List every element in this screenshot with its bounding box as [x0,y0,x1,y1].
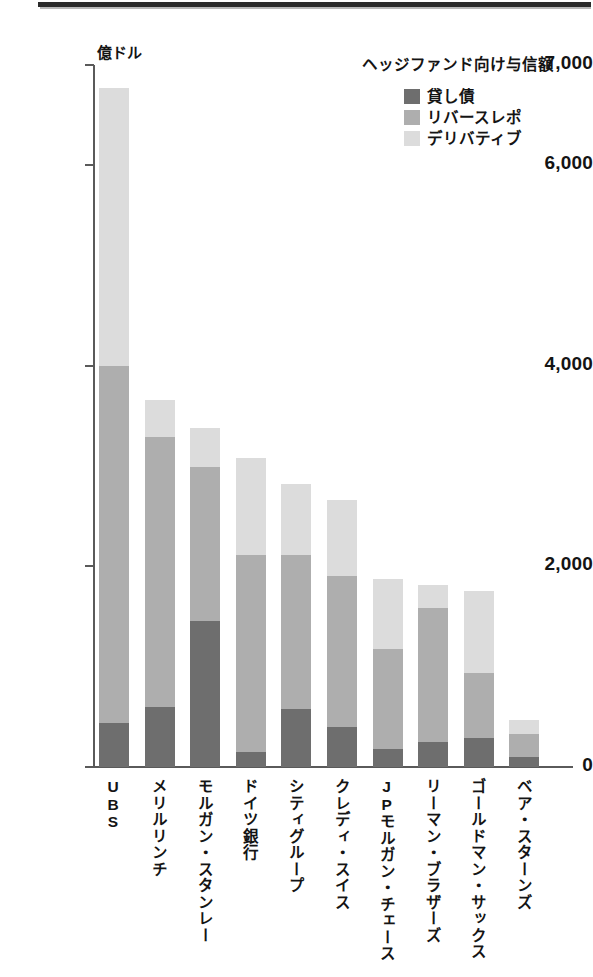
bar-stack [418,65,448,767]
bar-stack [190,65,220,767]
bar-segment [145,437,175,707]
y-axis-tick [85,565,94,567]
y-axis-unit-label: 億ドル [97,41,142,62]
bar-segment [236,555,266,752]
legend-items: 貸し債リバースレポデリバティブ [362,88,572,147]
bar-segment [281,709,311,767]
chart-legend: ヘッジファンド向け与信額 貸し債リバースレポデリバティブ [362,52,572,150]
legend-item-label: 貸し債 [427,88,475,106]
legend-item: デリバティブ [404,130,572,148]
bar-stack [236,65,266,767]
bar-segment [327,727,357,767]
x-axis-label: モルガン・スタンレー [196,778,212,943]
legend-item: 貸し債 [404,88,572,106]
x-axis-label: クレディ・スイス [333,778,349,910]
bar-segment [190,467,220,620]
bar-segment [373,649,403,749]
legend-swatch-icon [404,89,420,104]
bar-stack [281,65,311,767]
x-axis-label: UBS [105,778,121,831]
plot-area [95,65,560,767]
bar-segment [236,752,266,767]
bar-segment [373,579,403,648]
bar-segment [464,673,494,738]
x-axis-label: ベア・スターンズ [515,778,531,910]
stacked-bar-chart: 億ドル 02,0004,0006,0007,000 UBSメリルリンチモルガン・… [0,0,593,977]
legend-swatch-icon [404,131,420,146]
x-axis-label: JPモルガン・チェース [379,778,395,962]
bar-segment [99,723,129,767]
bar-segment [418,742,448,767]
bar-segment [418,585,448,607]
legend-item: リバースレポ [404,109,572,127]
bar-segment [509,757,539,767]
bar-segment [145,707,175,767]
legend-title: ヘッジファンド向け与信額 [362,52,572,74]
legend-item-label: デリバティブ [427,130,522,148]
bar-segment [190,428,220,467]
bar-segment [281,484,311,555]
bar-segment [509,734,539,757]
x-axis-label: メリルリンチ [151,778,167,877]
bar-segment [236,458,266,555]
bar-segment [464,738,494,767]
bar-segment [327,500,357,576]
bar-segment [464,591,494,673]
y-axis-tick [85,766,94,768]
bar-segment [509,720,539,734]
x-axis-label: ドイツ銀行 [242,778,258,861]
y-axis-tick [85,64,94,66]
bar-segment [373,749,403,767]
bar-stack [509,65,539,767]
bar-segment [281,555,311,708]
x-axis-label: リーマン・ブラザーズ [424,778,440,943]
legend-item-label: リバースレポ [427,109,522,127]
y-axis-tick [85,164,94,166]
x-axis-label: シティグループ [287,778,303,894]
bar-segment [99,88,129,366]
bar-stack [327,65,357,767]
x-axis-label: ゴールドマン・サックス [470,778,486,960]
bar-stack [464,65,494,767]
bar-stack [373,65,403,767]
bar-stack [99,65,129,767]
bar-stack [145,65,175,767]
legend-swatch-icon [404,110,420,125]
bar-segment [145,400,175,437]
y-axis-tick [85,365,94,367]
bar-segment [99,366,129,723]
bar-segment [418,608,448,742]
bar-segment [190,621,220,767]
bar-segment [327,576,357,726]
